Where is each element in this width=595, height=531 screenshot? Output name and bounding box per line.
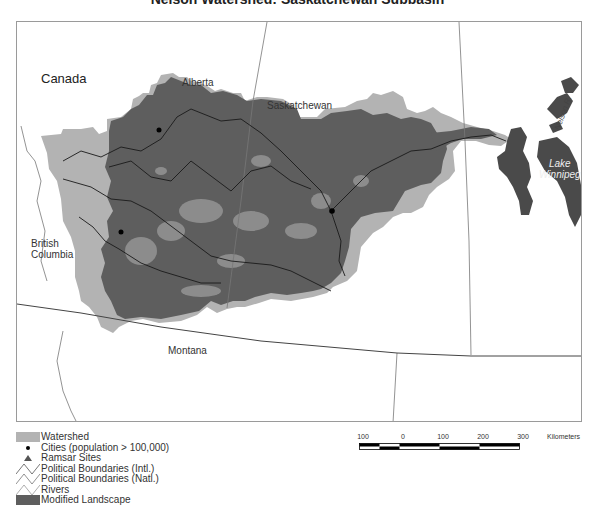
- label-canada: Canada: [41, 71, 87, 86]
- legend-item-natl-boundary: Political Boundaries (Natl.): [16, 474, 169, 484]
- legend-item-ramsar: Ramsar Sites: [16, 453, 169, 463]
- city-dot-icon: [16, 443, 40, 453]
- legend-label: Ramsar Sites: [41, 453, 101, 463]
- label-lake-line2: Winnipeg: [539, 169, 581, 180]
- intl-boundary-line-icon: [16, 464, 40, 474]
- scale-tick: 100: [357, 433, 369, 440]
- legend-label: Modified Landscape: [41, 495, 131, 505]
- river-line-icon: [16, 485, 40, 495]
- legend-item-modified: Modified Landscape: [16, 495, 169, 505]
- legend-item-rivers: Rivers: [16, 485, 169, 495]
- scale-unit: Kilometers: [547, 433, 580, 440]
- legend-label: Political Boundaries (Intl.): [41, 464, 154, 474]
- label-lake-line1: Lake: [539, 158, 581, 169]
- legend-item-watershed: Watershed: [16, 432, 169, 442]
- legend-label: Cities (population > 100,000): [41, 443, 169, 453]
- label-montana: Montana: [168, 345, 207, 356]
- label-saskatchewan: Saskatchewan: [267, 100, 332, 111]
- ramsar-triangle-icon: [16, 453, 40, 463]
- scale-tick: 200: [477, 433, 489, 440]
- scale-tick: 300: [517, 433, 529, 440]
- scale-bar-graphic: [359, 443, 529, 451]
- map-frame: Canada Alberta Saskatchewan British Colu…: [16, 21, 582, 422]
- label-british: British: [31, 238, 59, 249]
- legend-label: Watershed: [41, 432, 89, 442]
- legend-item-cities: Cities (population > 100,000): [16, 443, 169, 453]
- watershed-swatch: [16, 432, 40, 442]
- scale-tick: 100: [437, 433, 449, 440]
- scale-tick: 0: [401, 433, 405, 440]
- map-title: Nelson Watershed: Saskatchewan Subbasin: [0, 0, 595, 7]
- label-alberta: Alberta: [182, 77, 214, 88]
- label-columbia: Columbia: [31, 249, 73, 260]
- scale-bar: 100 0 100 200 300 Kilometers: [355, 433, 575, 453]
- natl-boundary-line-icon: [16, 474, 40, 484]
- legend: Watershed Cities (population > 100,000) …: [16, 432, 169, 506]
- modified-landscape-swatch: [16, 495, 40, 505]
- label-lake-winnipeg: Lake Winnipeg: [539, 158, 581, 180]
- legend-label: Political Boundaries (Natl.): [41, 474, 159, 484]
- legend-item-intl-boundary: Political Boundaries (Intl.): [16, 464, 169, 474]
- map-canvas: [17, 22, 582, 422]
- legend-label: Rivers: [41, 485, 69, 495]
